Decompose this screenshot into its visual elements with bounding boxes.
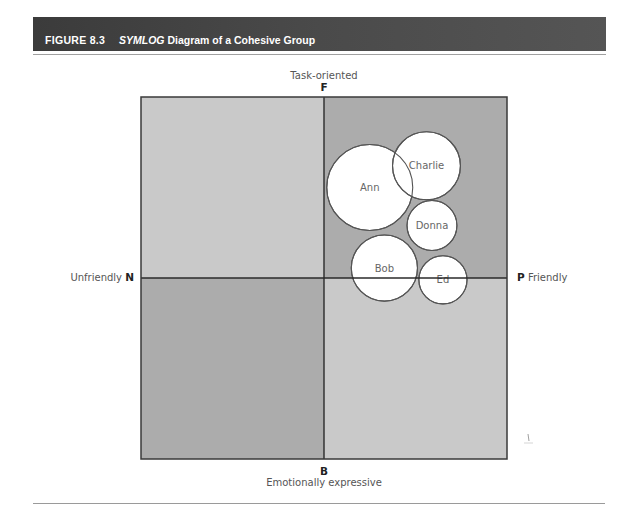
member-label: Donna [416, 220, 449, 231]
member-label: Ed [437, 274, 450, 285]
footer-rule [33, 503, 605, 504]
quadrant-unfriendly-task [141, 97, 324, 278]
member-label: Charlie [409, 160, 444, 171]
symlog-diagram: AnnCharlieDonnaBobEd [0, 0, 634, 511]
member-label: Ann [360, 182, 380, 193]
quadrant-unfriendly-expressive [141, 278, 324, 459]
member-label: Bob [375, 263, 394, 274]
scan-speck [524, 434, 533, 443]
quadrant-friendly-expressive [324, 278, 507, 459]
speck-mark [528, 434, 529, 441]
